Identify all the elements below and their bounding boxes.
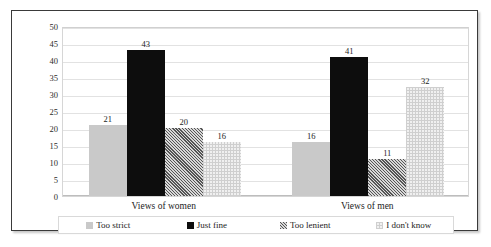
y-axis-tick-label: 40 bbox=[14, 57, 58, 66]
plot-area: 2143201616411132 bbox=[62, 27, 469, 197]
y-axis-tick-label: 25 bbox=[14, 108, 58, 117]
chart-border-box: 50454035302520151050 2143201616411132 Vi… bbox=[11, 10, 478, 231]
bar-value-label: 32 bbox=[402, 77, 448, 86]
legend-swatch-just-fine-icon bbox=[187, 222, 194, 229]
bar-too-lenient-men bbox=[368, 159, 406, 196]
gridline bbox=[63, 28, 468, 29]
legend-swatch-i-dont-know-icon bbox=[376, 222, 383, 229]
bar-too-strict-women bbox=[89, 125, 127, 196]
category-label-men: Views of men bbox=[266, 202, 470, 212]
category-label-women: Views of women bbox=[62, 202, 266, 212]
y-axis-tick-label: 20 bbox=[14, 125, 58, 134]
legend-item-just-fine[interactable]: Just fine bbox=[158, 221, 257, 230]
bar-too-strict-men bbox=[292, 142, 330, 196]
bar-just-fine-men bbox=[330, 57, 368, 196]
bar-value-label: 16 bbox=[199, 132, 245, 141]
bar-value-label: 16 bbox=[288, 132, 334, 141]
bar-i-dont-know-women bbox=[203, 142, 241, 196]
y-axis-tick-label: 50 bbox=[14, 23, 58, 32]
bar-value-label: 41 bbox=[326, 47, 372, 56]
legend-label: Too strict bbox=[96, 221, 130, 230]
y-axis-tick-label: 45 bbox=[14, 40, 58, 49]
bar-value-label: 43 bbox=[123, 40, 169, 49]
legend-item-i-dont-know[interactable]: I don't know bbox=[355, 221, 454, 230]
legend-item-too-lenient[interactable]: Too lenient bbox=[256, 221, 355, 230]
bar-value-label: 11 bbox=[364, 149, 410, 158]
y-axis-tick-label: 0 bbox=[14, 193, 58, 202]
chart-legend: Too strictJust fineToo lenientI don't kn… bbox=[58, 216, 454, 234]
y-axis: 50454035302520151050 bbox=[12, 27, 58, 197]
bar-too-lenient-women bbox=[165, 128, 203, 196]
bar-just-fine-women bbox=[127, 50, 165, 196]
bar-i-dont-know-men bbox=[406, 87, 444, 196]
y-axis-tick-label: 15 bbox=[14, 142, 58, 151]
chart-container: 50454035302520151050 2143201616411132 Vi… bbox=[0, 0, 491, 247]
bar-value-label: 21 bbox=[85, 115, 131, 124]
bar-value-label: 20 bbox=[161, 118, 207, 127]
legend-item-too-strict[interactable]: Too strict bbox=[59, 221, 158, 230]
legend-swatch-too-lenient-icon bbox=[280, 222, 287, 229]
legend-label: Just fine bbox=[197, 221, 227, 230]
y-axis-tick-label: 5 bbox=[14, 176, 58, 185]
y-axis-tick-label: 35 bbox=[14, 74, 58, 83]
gridline bbox=[63, 62, 468, 63]
legend-swatch-too-strict-icon bbox=[86, 222, 93, 229]
legend-label: Too lenient bbox=[290, 221, 331, 230]
legend-label: I don't know bbox=[386, 221, 431, 230]
y-axis-tick-label: 10 bbox=[14, 159, 58, 168]
y-axis-tick-label: 30 bbox=[14, 91, 58, 100]
